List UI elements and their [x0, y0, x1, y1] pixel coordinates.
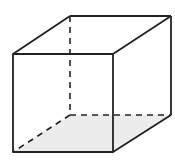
cube-diagram: [0, 0, 175, 160]
edge-top-right-diagonal: [113, 16, 171, 54]
bottom-face: [13, 115, 171, 152]
edge-top-left-diagonal: [13, 16, 70, 54]
